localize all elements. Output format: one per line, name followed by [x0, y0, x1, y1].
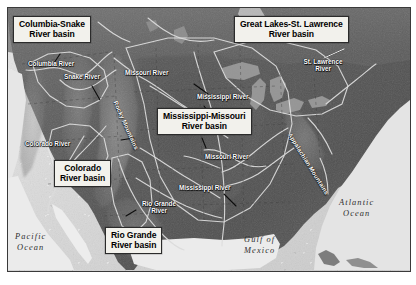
basin-label-rio-grande-line1: Rio Grande [111, 230, 156, 240]
st-lawrence-line2: River [290, 65, 356, 72]
map-frame: Rocky Mountains Appalachian Mountains Co… [7, 7, 411, 272]
basin-label-columbia-snake[interactable]: Columbia-Snake River basin [13, 16, 91, 43]
river-label-missouri-river-upper: Missouri River [125, 69, 168, 76]
map-screenshot: Rocky Mountains Appalachian Mountains Co… [0, 0, 416, 285]
gulf-of-mexico-line1: Gulf of [244, 235, 275, 246]
river-label-mississippi-river-lower: Mississippi River [179, 184, 230, 191]
ocean-label-atlantic-ocean: Atlantic Ocean [339, 198, 374, 219]
basin-label-great-lakes-line1: Great Lakes-St. Lawrence [240, 19, 343, 29]
pacific-ocean-line1: Pacific [15, 232, 46, 243]
basin-label-colorado-line1: Colorado [60, 163, 105, 173]
basin-label-mississippi-missouri-line2: River basin [163, 121, 246, 131]
atlantic-ocean-line1: Atlantic [339, 198, 374, 209]
basin-label-rio-grande-line2: River basin [111, 240, 156, 250]
ocean-label-pacific-ocean: Pacific Ocean [15, 232, 46, 253]
basin-label-colorado[interactable]: Colorado River basin [54, 160, 111, 187]
atlantic-ocean-line2: Ocean [339, 209, 374, 220]
river-label-colorado-river: Colorado River [25, 140, 70, 147]
basin-label-colorado-line2: River basin [60, 173, 105, 183]
ocean-label-gulf-of-mexico: Gulf of Mexico [244, 235, 275, 256]
river-label-columbia-river: Columbia River [28, 60, 74, 67]
river-label-rio-grande-river: Rio Grande River [131, 200, 187, 215]
basin-label-mississippi-missouri-line1: Mississippi-Missouri [163, 111, 246, 121]
basin-label-great-lakes-line2: River basin [240, 29, 343, 39]
river-label-missouri-river-lower: Missouri River [205, 153, 248, 160]
basin-label-great-lakes-st-lawrence[interactable]: Great Lakes-St. Lawrence River basin [234, 16, 349, 43]
gulf-of-mexico-line2: Mexico [244, 246, 275, 257]
pacific-ocean-line2: Ocean [15, 243, 46, 254]
river-label-snake-river: Snake River [64, 73, 100, 80]
basin-label-columbia-snake-line1: Columbia-Snake [19, 19, 85, 29]
rio-grande-river-line2: River [131, 207, 187, 214]
basin-label-mississippi-missouri[interactable]: Mississippi-Missouri River basin [157, 108, 252, 135]
river-label-mississippi-river-upper: Mississippi River [197, 93, 248, 100]
river-label-st-lawrence-river: St. Lawrence River [290, 58, 356, 73]
basin-label-columbia-snake-line2: River basin [19, 29, 85, 39]
basin-label-rio-grande[interactable]: Rio Grande River basin [105, 227, 162, 254]
